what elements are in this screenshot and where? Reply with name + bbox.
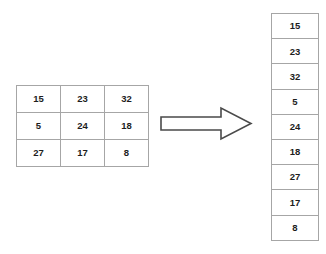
- table-row: 27 17 8: [17, 140, 149, 167]
- list-cell-7: 17: [272, 190, 319, 215]
- matrix-cell-r0c2: 32: [105, 86, 149, 113]
- list-cell-4: 24: [272, 114, 319, 139]
- matrix-cell-r1c1: 24: [61, 113, 105, 140]
- table-row: 5 24 18: [17, 113, 149, 140]
- matrix-cell-r2c2: 8: [105, 140, 149, 167]
- right-arrow-icon: [159, 104, 253, 144]
- matrix-cell-r0c1: 23: [61, 86, 105, 113]
- matrix-cell-r1c0: 5: [17, 113, 61, 140]
- matrix-cell-r0c0: 15: [17, 86, 61, 113]
- list-item: 8: [272, 215, 319, 240]
- table-row: 15 23 32: [17, 86, 149, 113]
- flattened-list: 15 23 32 5 24 18 27 17 8: [271, 13, 319, 241]
- list-item: 23: [272, 39, 319, 64]
- matrix-cell-r2c0: 27: [17, 140, 61, 167]
- list-item: 15: [272, 14, 319, 39]
- list-item: 32: [272, 64, 319, 89]
- diagram-canvas: 15 23 32 5 24 18 27 17 8 15 2: [0, 0, 326, 254]
- list-cell-0: 15: [272, 14, 319, 39]
- list-item: 5: [272, 89, 319, 114]
- list-item: 27: [272, 165, 319, 190]
- list-cell-5: 18: [272, 139, 319, 164]
- matrix-cell-r1c2: 18: [105, 113, 149, 140]
- list-item: 18: [272, 139, 319, 164]
- list-cell-3: 5: [272, 89, 319, 114]
- list-cell-6: 27: [272, 165, 319, 190]
- list-cell-1: 23: [272, 39, 319, 64]
- list-cell-2: 32: [272, 64, 319, 89]
- list-cell-8: 8: [272, 215, 319, 240]
- matrix-cell-r2c1: 17: [61, 140, 105, 167]
- matrix-grid: 15 23 32 5 24 18 27 17 8: [16, 85, 149, 167]
- list-item: 24: [272, 114, 319, 139]
- list-item: 17: [272, 190, 319, 215]
